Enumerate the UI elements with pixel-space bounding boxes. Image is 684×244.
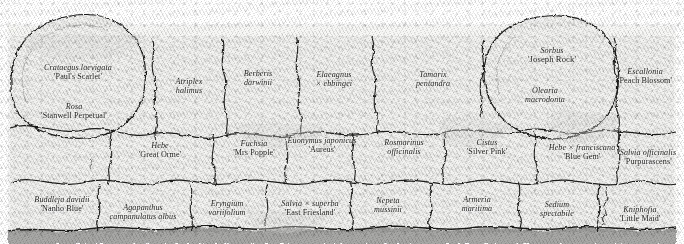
plant-cultivar: × ebbingei	[316, 79, 352, 88]
plant-genus: Rosmarinus	[384, 138, 424, 147]
planting-plan-canvas: Crataegus laevigata 'Paul's Scarlet' Ros…	[0, 0, 684, 244]
plant-cultivar: pentandra	[416, 79, 450, 88]
plant-label-rosmarinus: Rosmarinus officinalis	[384, 138, 424, 156]
plant-cultivar: 'Silver Pink'	[467, 147, 507, 156]
plant-label-rosa: Rosa 'Stanwell Perpetual'	[41, 102, 107, 120]
plant-label-hebe-great-orme: Hebe 'Great Orme'	[139, 141, 182, 159]
plant-genus: Salvia × superba	[281, 199, 338, 208]
plant-label-hebe-franciscana: Hebe × franciscana 'Blue Gem'	[549, 143, 616, 161]
plant-genus: Hebe	[151, 141, 168, 150]
plan-ink-layer	[0, 0, 684, 244]
plant-cultivar: 'Blue Gem'	[564, 152, 601, 161]
plant-cultivar: mussinii	[374, 205, 402, 214]
plant-cultivar: 'Aureus'	[308, 145, 335, 154]
plant-label-fuchsia: Fuchsia 'Mrs Popple'	[233, 139, 275, 157]
plant-genus: Sedium	[545, 200, 569, 209]
plant-genus: Atriplex	[176, 77, 203, 86]
plant-genus: Buddleja davidii	[34, 195, 89, 204]
plant-label-atriplex: Atriplex halimus	[176, 77, 203, 95]
plant-genus: Tamarix	[419, 70, 446, 79]
plant-cultivar: 'Mrs Popple'	[233, 148, 275, 157]
plant-label-tamarix: Tamarix pentandra	[416, 70, 450, 88]
plant-cultivar: 'Great Orme'	[139, 150, 182, 159]
plant-genus: Armeria	[463, 195, 491, 204]
plant-label-cistus: Cistus 'Silver Pink'	[467, 138, 507, 156]
plant-genus: Nepeta	[376, 196, 400, 205]
plant-label-sedum: Sedium spectabile	[540, 200, 574, 218]
plant-genus: Olearia	[532, 86, 558, 95]
plant-cultivar: darwinii	[244, 78, 272, 87]
plant-label-sorbus: Sorbus 'Joseph Rock'	[528, 46, 576, 65]
plant-label-eryngium: Eryngium variifolium	[208, 199, 245, 217]
plant-label-salvia-officinalis: Salvia officinalis 'Purpurascens'	[620, 148, 676, 166]
plant-cultivar: 'Purpurascens'	[624, 157, 671, 166]
plant-cultivar: 'Joseph Rock'	[528, 54, 576, 64]
plant-cultivar: 'Peach Blossom'	[618, 76, 672, 85]
plant-label-escallonia: Escallonia 'Peach Blossom'	[618, 67, 672, 85]
plant-cultivar: macrodonta	[525, 95, 565, 104]
plant-label-buddleja: Buddleja davidii 'Nanho Blue'	[34, 195, 89, 213]
plant-label-elaeagnus: Elaeagnus × ebbingei	[316, 70, 352, 88]
plant-label-nepeta: Nepeta mussinii	[374, 196, 402, 214]
plant-label-armeria: Armeria maritima	[462, 195, 492, 213]
plant-label-euonymus: Euonymus japonicus 'Aureus'	[287, 136, 356, 154]
plant-cultivar: campanulatus albus	[110, 212, 177, 221]
plant-genus: Escallonia	[627, 67, 663, 76]
plant-genus: Elaeagnus	[316, 70, 351, 79]
plant-cultivar: 'Nanho Blue'	[40, 204, 83, 213]
plant-genus: Kniphofia	[623, 205, 656, 214]
plant-genus: Rosa	[66, 102, 83, 111]
plant-cultivar: 'East Friesland'	[285, 208, 336, 217]
plant-cultivar: variifolium	[208, 208, 245, 217]
plant-cultivar: 'Little Maid'	[620, 214, 661, 223]
plant-cultivar: 'Stanwell Perpetual'	[41, 111, 107, 120]
plant-genus: Berberis	[244, 69, 273, 78]
plant-cultivar: spectabile	[540, 209, 574, 218]
plant-cultivar: halimus	[176, 86, 202, 95]
plant-label-kniphofia: Kniphofia 'Little Maid'	[620, 205, 661, 223]
plant-genus: Fuchsia	[241, 139, 268, 148]
plant-cultivar: officinalis	[387, 147, 420, 156]
plant-genus: Salvia officinalis	[620, 148, 676, 157]
plant-genus: Hebe × franciscana	[549, 143, 616, 152]
plant-genus: Eryngium	[211, 199, 244, 208]
plant-label-agapanthus: Agapanthus campanulatus albus	[110, 203, 177, 221]
plant-genus: Cistus	[477, 138, 498, 147]
plant-label-crataegus: Crataegus laevigata 'Paul's Scarlet'	[44, 63, 112, 81]
plant-genus: Euonymus japonicus	[287, 136, 356, 145]
plant-genus: Crataegus laevigata	[44, 63, 112, 72]
plant-label-berberis: Berberis darwinii	[244, 69, 273, 87]
plant-label-olearia: Olearia macrodonta	[525, 86, 565, 104]
plant-genus: Agapanthus	[123, 203, 163, 212]
plant-cultivar: maritima	[462, 204, 492, 213]
plant-cultivar: 'Paul's Scarlet'	[54, 72, 102, 81]
plant-label-salvia-superba: Salvia × superba 'East Friesland'	[281, 199, 338, 217]
